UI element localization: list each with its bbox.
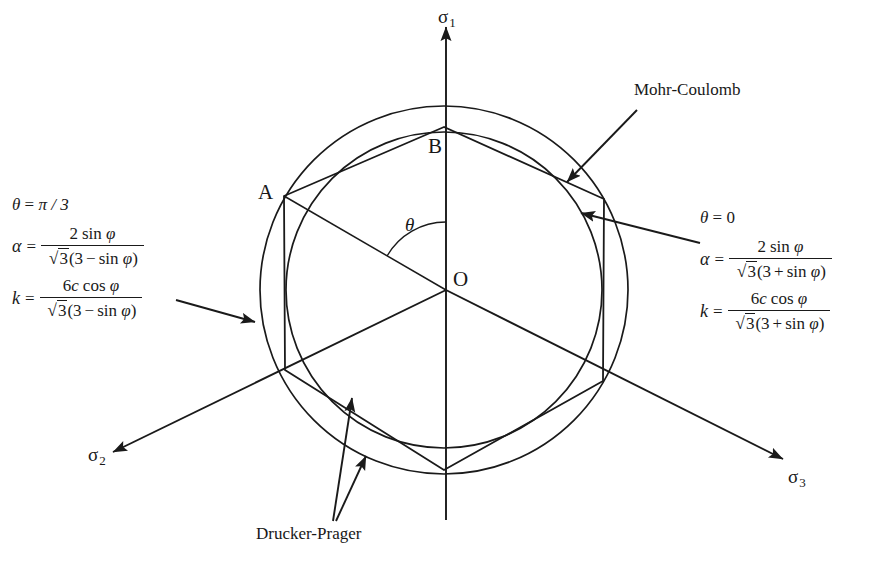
formula-block-left: θ = π / 3 α = 2sin φ √3(3−sin φ) k = 6cc… — [12, 195, 144, 328]
right-alpha-fraction: 2sin φ √3(3+sin φ) — [729, 237, 832, 282]
sigma-1-axis-label: σ1 — [438, 6, 456, 31]
left-k-num-var: φ — [110, 276, 119, 295]
left-alpha-num-coeff: 2 — [69, 224, 78, 243]
right-k-num-c: c — [759, 289, 767, 308]
mohr-coulomb-callout: Mohr-Coulomb — [634, 80, 740, 100]
right-k-denominator: √3(3+sin φ) — [728, 310, 831, 334]
left-k-den-const: 3 — [73, 301, 82, 320]
mohr-coulomb-leader — [567, 110, 637, 182]
left-k-den-func: sin — [97, 301, 117, 320]
left-k-den-root: 3 — [57, 300, 68, 321]
left-condition: θ = π / 3 — [12, 195, 144, 215]
left-alpha-den-func: sin — [99, 249, 119, 268]
left-alpha-den-var: φ — [123, 249, 132, 268]
right-k-den-func: sin — [785, 314, 805, 333]
right-alpha-equation: α = 2sin φ √3(3+sin φ) — [700, 237, 832, 282]
drucker-prager-leader-inner — [333, 398, 352, 521]
right-condition-equals: = — [713, 208, 723, 227]
left-alpha-num-func: sin — [78, 224, 102, 243]
theta-ray — [284, 196, 446, 290]
right-alpha-den-var: φ — [811, 262, 820, 281]
left-k-numerator: 6ccos φ — [40, 276, 143, 297]
right-k-sqrt: √3 — [734, 313, 756, 334]
right-alpha-denominator: √3(3+sin φ) — [729, 258, 832, 282]
drucker-prager-leader-outer — [336, 456, 366, 521]
theta-zero-leader — [581, 213, 700, 243]
right-alpha-den-close: ) — [820, 262, 826, 281]
right-alpha-den-sign: + — [771, 262, 787, 281]
right-k-den-close: ) — [819, 314, 825, 333]
left-condition-equals: = — [25, 195, 35, 214]
left-alpha-numerator: 2sin φ — [41, 224, 144, 245]
right-k-num-var: φ — [798, 289, 807, 308]
right-alpha-den-func: sin — [787, 262, 807, 281]
origin-label: O — [453, 267, 468, 292]
right-condition-symbol: θ — [700, 208, 708, 227]
left-k-equation: k = 6ccos φ √3(3−sin φ) — [12, 276, 144, 321]
sigma-1-subscript: 1 — [448, 15, 456, 30]
right-alpha-equals: = — [714, 250, 729, 270]
left-condition-value: π / 3 — [38, 195, 68, 214]
left-condition-symbol: θ — [12, 195, 20, 214]
right-k-equation: k = 6ccos φ √3(3+sin φ) — [700, 289, 832, 334]
right-k-den-var: φ — [809, 314, 818, 333]
formula-block-right: θ = 0 α = 2sin φ √3(3+sin φ) k = 6ccos φ — [700, 208, 832, 341]
left-alpha-equals: = — [26, 237, 41, 257]
left-alpha-equation: α = 2sin φ √3(3−sin φ) — [12, 224, 144, 269]
left-alpha-fraction: 2sin φ √3(3−sin φ) — [41, 224, 144, 269]
left-alpha-num-var: φ — [106, 224, 115, 243]
left-alpha-denominator: √3(3−sin φ) — [41, 245, 144, 269]
left-k-num-c: c — [71, 276, 79, 295]
sigma-2-symbol: σ — [88, 444, 98, 465]
left-k-den-close: ) — [131, 301, 137, 320]
right-alpha-sqrt: √3 — [735, 261, 757, 282]
sigma-1-symbol: σ — [438, 6, 448, 27]
vertex-b-label: B — [428, 134, 442, 159]
sigma-3-axis-label: σ3 — [788, 466, 806, 491]
right-alpha-den-const: 3 — [763, 262, 772, 281]
left-k-equals: = — [25, 289, 40, 309]
right-k-equals: = — [713, 302, 728, 322]
left-k-num-func: cos — [79, 276, 106, 295]
right-k-fraction: 6ccos φ √3(3+sin φ) — [728, 289, 831, 334]
right-alpha-num-var: φ — [794, 237, 803, 256]
left-k-lhs: k — [12, 288, 25, 309]
left-k-denominator: √3(3−sin φ) — [40, 297, 143, 321]
left-k-den-var: φ — [121, 301, 130, 320]
left-alpha-den-sign: − — [83, 249, 99, 268]
vertex-a-label: A — [258, 180, 273, 205]
theta-arc — [387, 222, 446, 256]
right-condition: θ = 0 — [700, 208, 832, 228]
left-k-den-sign: − — [82, 301, 98, 320]
right-alpha-den-root: 3 — [746, 261, 757, 282]
right-alpha-num-coeff: 2 — [757, 237, 766, 256]
right-k-lhs: k — [700, 301, 713, 322]
drucker-prager-callout: Drucker-Prager — [256, 524, 361, 544]
left-alpha-den-const: 3 — [75, 249, 84, 268]
theta-angle-label: θ — [405, 214, 414, 236]
sigma-3-symbol: σ — [788, 466, 798, 487]
sigma-2-subscript: 2 — [98, 453, 106, 468]
sigma-2-axis-label: σ2 — [88, 444, 106, 469]
right-alpha-num-func: sin — [766, 237, 790, 256]
left-alpha-den-close: ) — [132, 249, 138, 268]
axes-group — [113, 27, 783, 520]
right-k-den-sign: + — [770, 314, 786, 333]
right-alpha-lhs: α — [700, 249, 714, 270]
right-k-den-root: 3 — [745, 313, 756, 334]
left-alpha-lhs: α — [12, 236, 26, 257]
left-k-sqrt: √3 — [46, 300, 68, 321]
right-condition-value: 0 — [726, 208, 735, 227]
right-k-num-func: cos — [767, 289, 794, 308]
sigma-3-subscript: 3 — [798, 475, 806, 490]
left-alpha-sqrt: √3 — [47, 248, 69, 269]
theta-pi3-leader — [176, 300, 255, 322]
right-alpha-numerator: 2sin φ — [729, 237, 832, 258]
left-alpha-den-root: 3 — [58, 248, 69, 269]
left-k-fraction: 6ccos φ √3(3−sin φ) — [40, 276, 143, 321]
right-k-den-const: 3 — [761, 314, 770, 333]
right-k-numerator: 6ccos φ — [728, 289, 831, 310]
